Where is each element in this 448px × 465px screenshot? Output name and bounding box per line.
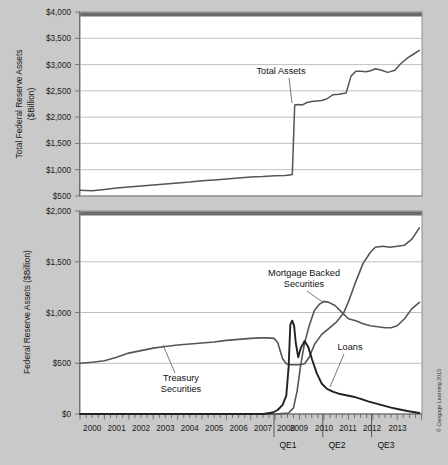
copyright-credit: © Cengage Learning 2015: [436, 369, 442, 432]
top-ytick-2500: $2,500: [46, 87, 71, 96]
xtick-2011: 2011: [339, 424, 357, 433]
top-ylabel-line1: Total Federal Reserve Assets: [14, 50, 24, 159]
xtick-2001: 2001: [107, 424, 126, 433]
xtick-2010: 2010: [315, 424, 334, 433]
top-ytick-500: $500: [53, 192, 72, 201]
bottom-plot-top-shadow: [80, 211, 422, 216]
top-ylabel-line2: ($Billion): [26, 88, 36, 121]
xtick-2013: 2013: [388, 424, 407, 433]
chart-svg: $4,000 $3,500 $3,000 $2,500 $2,000 $1,50…: [0, 0, 448, 465]
bottom-ytick-1500: $1,500: [46, 258, 71, 267]
top-ytick-4000: $4,000: [46, 8, 71, 17]
annotation-mbs-line2: Securities: [284, 279, 325, 289]
annotation-loans-label: Loans: [337, 342, 362, 352]
xtick-2005: 2005: [205, 424, 224, 433]
bottom-y-axis-title: Federal Reserve Assets ($Billion): [22, 250, 32, 374]
bottom-ytick-2000: $2,000: [46, 207, 71, 216]
top-ytick-1000: $1,000: [46, 166, 71, 175]
qe2-label: QE2: [328, 440, 345, 450]
top-ytick-1500: $1,500: [46, 139, 71, 148]
qe3-label: QE3: [377, 440, 394, 450]
annotation-treasury-line1: Treasury: [163, 373, 199, 383]
bottom-ytick-0: $0: [62, 410, 72, 419]
annotation-mbs-line1: Mortgage Backed: [268, 268, 340, 278]
xtick-2002: 2002: [132, 424, 151, 433]
top-plot-area: [80, 12, 422, 196]
bottom-ytick-500: $500: [53, 359, 72, 368]
xtick-2003: 2003: [156, 424, 175, 433]
annotation-treasury-line2: Securities: [161, 384, 202, 394]
xtick-2006: 2006: [229, 424, 248, 433]
bottom-ytick-1000: $1,000: [46, 309, 71, 318]
xtick-2007: 2007: [254, 424, 273, 433]
xtick-2000: 2000: [83, 424, 102, 433]
top-plot-top-shadow: [80, 12, 422, 17]
xtick-2012: 2012: [363, 424, 382, 433]
top-ytick-3500: $3,500: [46, 34, 71, 43]
bottom-panel: $2,000 $1,500 $1,000 $500 $0 Federal Res…: [22, 207, 422, 450]
top-ytick-2000: $2,000: [46, 113, 71, 122]
top-ytick-3000: $3,000: [46, 61, 71, 70]
xtick-2004: 2004: [181, 424, 200, 433]
xtick-2009: 2009: [290, 424, 309, 433]
federal-reserve-assets-figure: $4,000 $3,500 $3,000 $2,500 $2,000 $1,50…: [0, 0, 448, 465]
annotation-total-assets-label: Total Assets: [256, 66, 305, 76]
qe1-label: QE1: [279, 440, 296, 450]
